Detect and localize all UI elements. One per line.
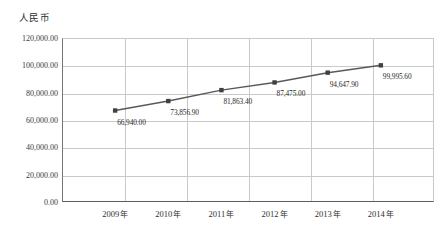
y-tick-label: 60,000.00 xyxy=(0,116,58,125)
line-chart: 人民币 0.0020,000.0040,000.0060,000.0080,00… xyxy=(0,0,446,238)
vertical-gridline xyxy=(187,39,188,201)
horizontal-gridline xyxy=(63,148,433,149)
y-tick-label: 80,000.00 xyxy=(0,88,58,97)
vertical-gridline xyxy=(373,39,374,201)
vertical-gridline xyxy=(311,39,312,201)
x-axis-tick-labels: 2009年2010年2011年2012年2013年2014年 xyxy=(62,208,434,226)
horizontal-gridline xyxy=(63,66,433,67)
y-axis-title: 人民币 xyxy=(19,10,50,24)
horizontal-gridline xyxy=(63,94,433,95)
chart-title xyxy=(120,0,340,10)
y-tick-label: 0.00 xyxy=(0,198,58,207)
data-point-label: 94,647.90 xyxy=(330,79,359,88)
data-point-label: 87,475.00 xyxy=(277,89,306,98)
y-tick-label: 20,000.00 xyxy=(0,170,58,179)
data-point-label: 73,856.90 xyxy=(170,108,199,117)
x-tick-label: 2012年 xyxy=(262,208,288,219)
data-point-label: 66,940.00 xyxy=(117,117,146,126)
vertical-gridline xyxy=(249,39,250,201)
data-point-label: 81,863.40 xyxy=(223,97,252,106)
x-tick-label: 2009年 xyxy=(102,208,128,219)
x-tick-label: 2014年 xyxy=(368,208,394,219)
horizontal-gridline xyxy=(63,176,433,177)
x-tick-label: 2013年 xyxy=(315,208,341,219)
x-tick-label: 2010年 xyxy=(155,208,181,219)
y-axis-tick-labels: 0.0020,000.0040,000.0060,000.0080,000.00… xyxy=(0,38,58,202)
x-tick-label: 2011年 xyxy=(209,208,235,219)
data-point-label: 99,995.60 xyxy=(383,72,412,81)
y-tick-label: 120,000.00 xyxy=(0,34,58,43)
y-tick-label: 100,000.00 xyxy=(0,61,58,70)
y-tick-label: 40,000.00 xyxy=(0,143,58,152)
